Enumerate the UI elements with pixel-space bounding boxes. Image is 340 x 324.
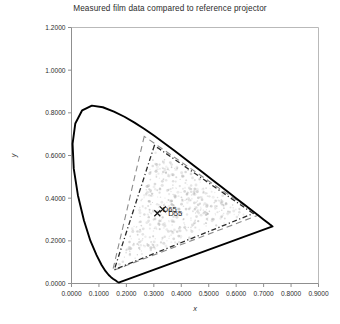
x-tick-label-5: 0.5000 <box>199 290 220 297</box>
y-tick-label-4: 0.8000 <box>45 109 66 116</box>
y-axis-label: y <box>9 152 18 158</box>
x-tick-label-2: 0.2000 <box>116 290 137 297</box>
y-tick-label-6: 1.2000 <box>45 24 66 31</box>
plot-frame-left-bottom <box>72 28 319 284</box>
y-tick-label-2: 0.4000 <box>45 195 66 202</box>
x-tick-label-7: 0.7000 <box>254 290 275 297</box>
x-tick-label-0: 0.0000 <box>61 290 82 297</box>
x-tick-label-1: 0.1000 <box>89 290 110 297</box>
plot-frame-top-right <box>72 28 319 284</box>
y-tick-label-1: 0.2000 <box>45 237 66 244</box>
x-tick-label-9: 0.9000 <box>308 290 329 297</box>
x-tick-label-8: 0.8000 <box>281 290 302 297</box>
x-tick-label-3: 0.3000 <box>144 290 165 297</box>
y-tick-label-5: 1.0000 <box>45 67 66 74</box>
figure: Measured film data compared to reference… <box>0 0 340 324</box>
y-tick-label-3: 0.6000 <box>45 152 66 159</box>
x-tick-label-4: 0.4000 <box>171 290 192 297</box>
white-point-label-d55: D55 <box>168 209 182 218</box>
x-tick-label-6: 0.6000 <box>226 290 247 297</box>
chromaticity-plot: 0.00000.10000.20000.30000.40000.50000.60… <box>0 0 340 324</box>
reference-projector-gamut <box>113 136 258 270</box>
measured-film-samples <box>118 147 244 265</box>
figure-caption <box>0 312 340 318</box>
y-tick-label-0: 0.0000 <box>45 280 66 287</box>
